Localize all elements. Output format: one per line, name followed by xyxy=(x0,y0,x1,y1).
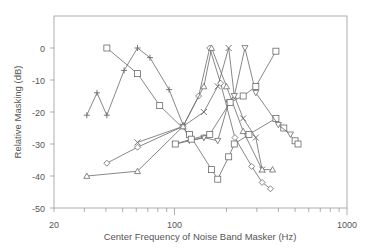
series-group xyxy=(84,45,301,192)
x-axis: 201001000 xyxy=(49,208,357,230)
y-axis: 0-10-20-30-40-50 xyxy=(32,44,54,214)
x-marker xyxy=(201,109,207,115)
down-triangle-marker xyxy=(242,46,248,51)
square-marker xyxy=(135,71,141,77)
y-tick-label: -10 xyxy=(32,76,45,86)
x-tick-label: 100 xyxy=(167,220,182,230)
square-marker xyxy=(253,83,259,89)
y-tick-label: -20 xyxy=(32,108,45,118)
series-line-diamond xyxy=(107,48,271,189)
down-triangle-marker xyxy=(215,138,221,143)
x-tick-label: 20 xyxy=(49,220,59,230)
square-marker xyxy=(188,136,194,142)
square-marker xyxy=(209,167,215,173)
down-triangle-marker xyxy=(253,90,259,95)
series-plus xyxy=(84,45,207,144)
series-line-plus xyxy=(87,48,204,141)
chart: 0-10-20-30-40-50 201001000 Center Freque… xyxy=(0,0,369,252)
x-axis-label: Center Frequency of Noise Band Masker (H… xyxy=(104,231,297,242)
square-marker xyxy=(240,93,246,99)
diamond-marker xyxy=(232,135,238,141)
plus-marker xyxy=(104,112,110,118)
diamond-marker xyxy=(249,163,255,169)
square-marker xyxy=(281,125,287,131)
y-tick-label: -40 xyxy=(32,172,45,182)
x-marker xyxy=(240,115,246,121)
plus-marker xyxy=(84,112,90,118)
square-marker xyxy=(227,99,233,105)
y-axis-label: Relative Masking (dB) xyxy=(12,66,23,159)
square-marker xyxy=(207,131,213,137)
plus-marker xyxy=(121,67,127,73)
square-marker xyxy=(295,141,301,147)
triangle-marker xyxy=(223,83,229,88)
square-marker xyxy=(172,141,178,147)
triangle-marker xyxy=(240,128,246,133)
diamond-marker xyxy=(104,160,110,166)
series-line-square-high xyxy=(175,51,276,144)
square-marker xyxy=(273,48,279,54)
series-line-triangle xyxy=(87,48,273,176)
square-marker xyxy=(215,176,221,182)
plot-frame xyxy=(54,16,347,208)
square-marker xyxy=(246,131,252,137)
square-marker xyxy=(157,103,163,109)
y-tick-label: 0 xyxy=(40,44,45,54)
square-marker xyxy=(231,141,237,147)
y-tick-label: -30 xyxy=(32,140,45,150)
x-tick-label: 1000 xyxy=(337,220,357,230)
square-marker xyxy=(104,45,110,51)
down-triangle-marker xyxy=(287,132,293,137)
square-marker xyxy=(226,154,232,160)
plus-marker xyxy=(166,87,172,93)
plus-marker xyxy=(94,90,100,96)
y-tick-label: -50 xyxy=(32,204,45,214)
